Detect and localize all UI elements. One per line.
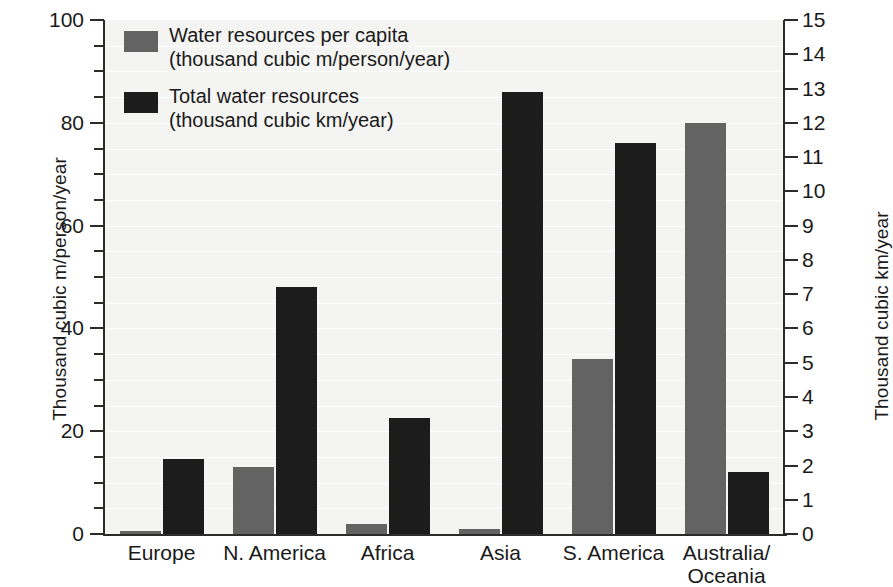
right-axis-tick-label: 9 [802,215,862,236]
right-axis-tick-label: 7 [802,283,862,304]
right-axis-tick-label: 4 [802,386,862,407]
axis-tick [784,533,798,535]
gridline [105,328,783,329]
bar [572,359,613,534]
legend-entry: Water resources per capita(thousand cubi… [124,24,450,71]
legend-label: Water resources per capita(thousand cubi… [169,24,450,71]
bar [276,287,317,534]
axis-tick [94,456,104,458]
gridline [105,174,783,175]
axis-tick [90,327,104,329]
axis-tick [784,362,798,364]
axis-tick [94,482,104,484]
gridline [105,483,783,484]
gridline [105,457,783,458]
right-axis-tick-label: 11 [802,146,862,167]
gridline [105,149,783,150]
axis-tick [94,379,104,381]
legend-label: Total water resources(thousand cubic km/… [169,85,394,132]
right-axis-tick-label: 2 [802,455,862,476]
axis-tick [784,225,798,227]
right-axis-tick-label: 14 [802,43,862,64]
axis-tick [784,430,798,432]
legend-entry: Total water resources(thousand cubic km/… [124,85,450,132]
category-label-line: Australia/ [637,542,817,565]
left-axis-tick-label: 80 [24,112,84,133]
bar [502,92,543,534]
axis-tick [784,53,798,55]
bar [163,459,204,534]
axis-tick [784,156,798,158]
legend-label-line1: Total water resources [169,85,394,109]
axis-tick [94,173,104,175]
right-axis-tick-label: 13 [802,78,862,99]
axis-tick [94,199,104,201]
axis-tick [94,96,104,98]
gridline [105,508,783,509]
legend-label-line1: Water resources per capita [169,24,450,48]
right-axis-title: Thousand cubic km/year [871,106,893,526]
right-axis-tick-label: 5 [802,352,862,373]
axis-tick [94,302,104,304]
axis-tick [90,225,104,227]
axis-tick [90,122,104,124]
category-label: Australia/Oceania [637,542,817,587]
gridline [105,277,783,278]
gridline [105,200,783,201]
left-axis-tick-label: 60 [24,215,84,236]
gridline [105,354,783,355]
right-axis-tick-label: 8 [802,249,862,270]
right-axis-tick-label: 3 [802,420,862,441]
gridline [105,406,783,407]
axis-tick [90,430,104,432]
axis-tick [784,396,798,398]
gridline [105,251,783,252]
axis-tick [784,327,798,329]
axis-tick [90,533,104,535]
axis-tick [784,293,798,295]
axis-tick [94,507,104,509]
axis-tick [94,276,104,278]
bar [346,524,387,534]
axis-tick [784,19,798,21]
left-axis-tick-label: 20 [24,420,84,441]
axis-tick [94,353,104,355]
right-axis-tick-label: 1 [802,489,862,510]
right-axis-tick-label: 10 [802,180,862,201]
bottom-axis-spine [103,534,787,536]
axis-tick [784,190,798,192]
legend-swatch [124,31,158,52]
axis-tick [94,405,104,407]
gridline [105,226,783,227]
axis-tick [784,88,798,90]
axis-tick [90,19,104,21]
gridline [105,380,783,381]
right-axis-tick-label: 0 [802,523,862,544]
axis-tick [94,250,104,252]
legend-label-line2: (thousand cubic m/person/year) [169,48,450,72]
axis-tick [94,70,104,72]
chart-legend: Water resources per capita(thousand cubi… [124,24,450,146]
axis-tick [784,499,798,501]
gridline [105,303,783,304]
axis-tick [784,259,798,261]
axis-tick [94,148,104,150]
bar [685,123,726,534]
left-axis-tick-label: 100 [24,9,84,30]
bar [389,418,430,535]
left-axis-tick-label: 40 [24,317,84,338]
bar [615,143,656,534]
axis-tick [784,465,798,467]
right-axis-tick-label: 6 [802,317,862,338]
right-axis-spine [783,20,785,536]
bar [233,467,274,534]
bar [728,472,769,534]
gridline [105,431,783,432]
legend-swatch [124,92,158,113]
right-axis-tick-label: 15 [802,9,862,30]
category-label-line: Oceania [637,565,817,587]
right-axis-tick-label: 12 [802,112,862,133]
axis-tick [784,122,798,124]
legend-label-line2: (thousand cubic km/year) [169,109,394,133]
